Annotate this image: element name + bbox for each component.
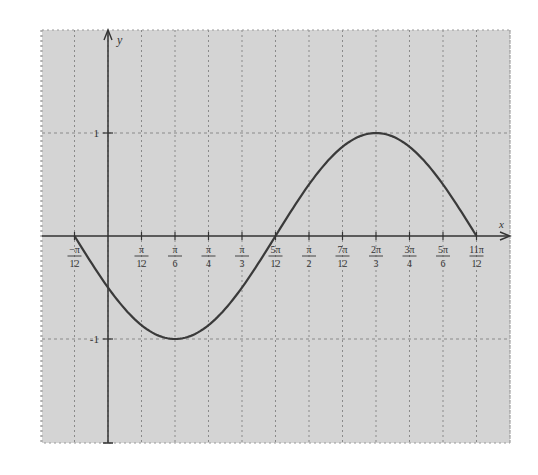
- x-tick-denominator: 12: [338, 258, 348, 269]
- x-tick-numerator: 2π: [371, 244, 381, 255]
- x-tick-denominator: 12: [69, 258, 79, 269]
- x-tick-numerator: π: [139, 244, 144, 255]
- x-tick-numerator: −π: [69, 244, 80, 255]
- x-tick-denominator: 12: [137, 258, 147, 269]
- x-tick-denominator: 6: [173, 258, 178, 269]
- y-tick-label: 1: [94, 127, 100, 139]
- x-tick-numerator: π: [172, 244, 177, 255]
- x-tick-denominator: 4: [206, 258, 211, 269]
- x-tick-numerator: π: [239, 244, 244, 255]
- x-tick-numerator: 5π: [438, 244, 448, 255]
- x-tick-denominator: 12: [271, 258, 281, 269]
- x-tick-numerator: 5π: [270, 244, 280, 255]
- x-tick-denominator: 6: [441, 258, 446, 269]
- x-tick-denominator: 4: [407, 258, 412, 269]
- y-axis-label: y: [116, 33, 123, 47]
- x-tick-denominator: 2: [307, 258, 312, 269]
- x-tick-numerator: 7π: [337, 244, 347, 255]
- x-tick-numerator: π: [306, 244, 311, 255]
- x-tick-denominator: 12: [472, 258, 482, 269]
- x-tick-numerator: 3π: [404, 244, 414, 255]
- x-tick-denominator: 3: [374, 258, 379, 269]
- x-tick-numerator: π: [206, 244, 211, 255]
- y-tick-label: -1: [90, 333, 99, 345]
- sine-chart: −π12π12π6π4π35π12π27π122π33π45π611π12 1-…: [0, 0, 538, 475]
- x-tick-numerator: 11π: [469, 244, 484, 255]
- x-tick-denominator: 3: [240, 258, 245, 269]
- x-axis-label: x: [498, 218, 504, 230]
